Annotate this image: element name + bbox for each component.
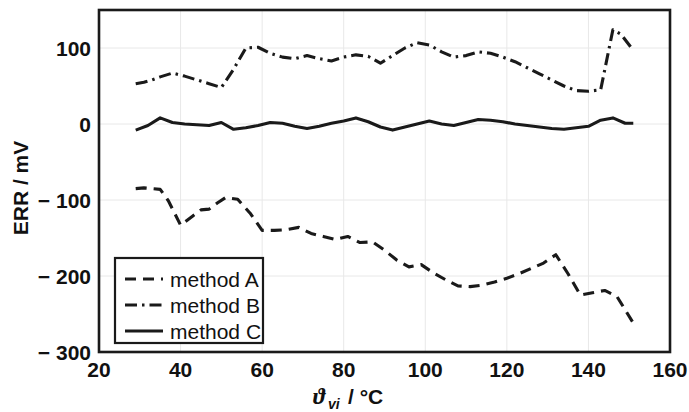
line-chart: 20406080100120140160 1000− 100− 200− 300… [0,0,689,412]
x-axis-title-symbol: ϑ [313,384,326,409]
x-axis-title-unit: / °C [348,385,383,408]
x-tick-label: 160 [652,358,687,381]
y-axis-tick-labels: 1000− 100− 200− 300 [38,37,91,364]
y-axis-title: ERR / mV [9,141,32,236]
y-tick-label: − 100 [38,189,91,212]
legend-label-method-b: method B [170,294,260,317]
series-line-method-b [136,30,634,92]
x-tick-label: 100 [408,358,443,381]
x-tick-label: 40 [169,358,192,381]
chart-legend: method Amethod Bmethod C [115,258,263,343]
y-tick-label: 100 [56,37,91,60]
legend-label-method-c: method C [170,320,261,343]
y-tick-label: 0 [79,113,91,136]
x-axis-title: ϑ vi / °C [313,384,383,412]
legend-label-method-a: method A [170,268,259,291]
x-tick-label: 120 [489,358,524,381]
chart-figure: 20406080100120140160 1000− 100− 200− 300… [0,0,689,412]
x-tick-label: 60 [250,358,273,381]
y-tick-label: − 300 [38,341,91,364]
x-tick-label: 140 [571,358,606,381]
y-tick-label: − 200 [38,265,91,288]
x-axis-title-subscript: vi [328,396,341,412]
x-tick-label: 80 [332,358,355,381]
x-axis-tick-labels: 20406080100120140160 [87,358,687,381]
y-axis-title-text: ERR / mV [9,141,32,236]
